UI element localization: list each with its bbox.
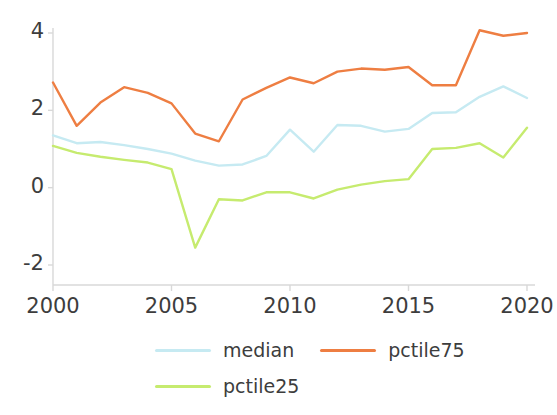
- chart-legend: medianpctile75pctile25: [155, 337, 551, 409]
- x-tick-label: 2005: [127, 294, 217, 318]
- legend-swatch-median: [155, 349, 211, 352]
- legend-swatch-pctile75: [320, 349, 376, 352]
- legend-label: pctile75: [388, 339, 464, 361]
- x-tick-label: 2015: [364, 294, 454, 318]
- legend-label: median: [223, 339, 294, 361]
- legend-item-median[interactable]: median: [155, 337, 294, 363]
- y-tick-label: 0: [0, 174, 44, 198]
- y-tick-label: -2: [0, 251, 44, 275]
- x-tick-label: 2000: [8, 294, 98, 318]
- legend-label: pctile25: [223, 375, 299, 397]
- series-line-pctile75: [53, 30, 527, 141]
- y-tick-label: 4: [0, 19, 44, 43]
- x-tick-label: 2010: [245, 294, 335, 318]
- legend-swatch-pctile25: [155, 385, 211, 388]
- series-lines: [53, 30, 527, 247]
- x-tick-label: 2020: [482, 294, 557, 318]
- y-tick-label: 2: [0, 96, 44, 120]
- legend-item-pctile75[interactable]: pctile75: [320, 337, 464, 363]
- legend-item-pctile25[interactable]: pctile25: [155, 373, 299, 399]
- series-line-median: [53, 86, 527, 165]
- tick-marks: [48, 33, 527, 291]
